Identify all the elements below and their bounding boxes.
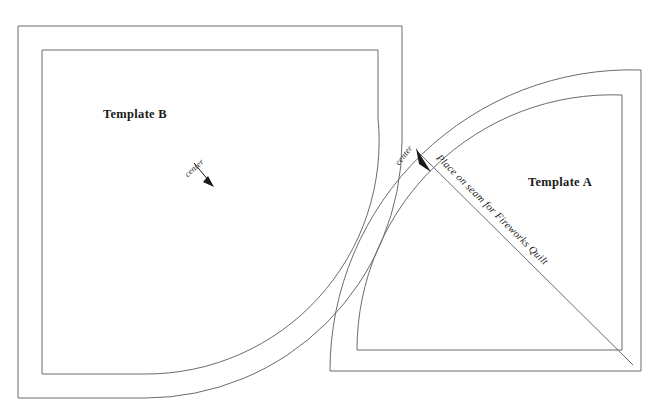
template-b-label: Template B	[103, 107, 167, 121]
template-a-center-arrow-head	[416, 148, 431, 172]
template-b-center-annotation: center	[182, 156, 214, 187]
pattern-sheet: Template B center Template A center Plac…	[0, 0, 669, 411]
template-a-center-annotation: center	[393, 143, 431, 172]
template-a-label: Template A	[528, 175, 592, 189]
template-a-seam-label: Place on seam for Fireworks Quilt	[434, 151, 551, 267]
template-b-center-arrow-head	[203, 176, 214, 187]
template-a-center-label: center	[393, 143, 415, 167]
template-a-diagonal-seam-line	[418, 152, 633, 365]
template-b-inner-outline	[42, 50, 379, 374]
template-b-outer-outline	[18, 26, 402, 398]
template-b-center-label: center	[182, 156, 206, 179]
template-pattern-drawing: Template B center Template A center Plac…	[0, 0, 669, 411]
template-a-outer-outline	[330, 70, 641, 371]
template-a-group: Template A center Place on seam for Fire…	[330, 70, 641, 371]
template-b-group: Template B center	[18, 26, 402, 398]
